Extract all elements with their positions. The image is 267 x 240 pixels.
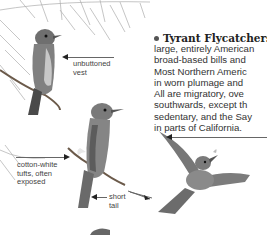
body-line: broad-based bills and (154, 54, 254, 65)
body-line: Most Northern Americ (154, 66, 254, 77)
body-line: in worn plumage and (154, 77, 254, 88)
tufts-annotation: cotton-white tufts, often exposed (17, 161, 57, 187)
flight-tail-leader-line (128, 190, 156, 202)
body-line: southwards, except th (154, 99, 254, 110)
body-line: sedentary, and the Say (154, 111, 254, 122)
top-bird-illustration (28, 29, 62, 115)
arrow-right-icon (64, 154, 70, 160)
arrow-left-icon (91, 194, 97, 200)
tail-leader-line (97, 197, 107, 198)
vest-leader-line (66, 57, 114, 58)
body-line: All are migratory, ove (154, 88, 254, 99)
tail-annotation: short tail (109, 193, 126, 210)
body-line: large, entirely American (154, 43, 254, 54)
wing-leader-line (170, 137, 267, 138)
section-body: large, entirely American broad-based bil… (154, 43, 254, 133)
arrow-left-icon (166, 134, 172, 140)
vest-annotation: unbuttoned vest (73, 60, 111, 77)
tufts-leader-line (16, 157, 66, 158)
flying-bird-illustration (158, 130, 250, 214)
bullet-icon (154, 36, 159, 41)
arrow-left-icon (62, 54, 68, 60)
body-line: in parts of California. (154, 122, 254, 133)
